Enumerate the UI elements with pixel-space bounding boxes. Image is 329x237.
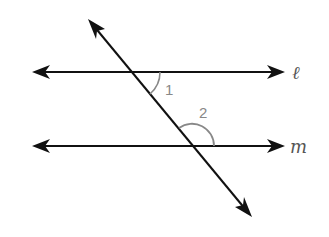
line-m-label: m: [290, 136, 307, 157]
transversal: [93, 25, 246, 210]
angle-2-label: 2: [199, 104, 207, 121]
angle-1-label: 1: [165, 81, 173, 98]
angle-1-arc: [150, 72, 160, 94]
diagram: ℓ m 1 2: [0, 0, 329, 237]
line-l-label: ℓ: [292, 62, 300, 83]
